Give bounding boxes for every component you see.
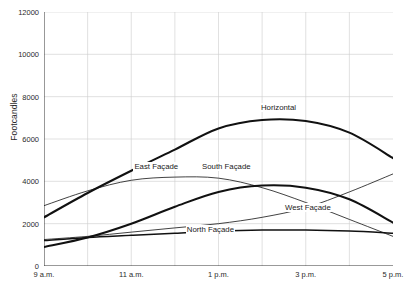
- series-label: Horizontal: [260, 103, 297, 112]
- y-axis-tick-label: 10000: [5, 50, 39, 59]
- y-axis-tick-label: 12000: [5, 8, 39, 17]
- x-axis-tick-label: 5 p.m.: [383, 270, 404, 279]
- series-label: East Façade: [133, 162, 179, 171]
- x-axis-tick-label: 3 p.m.: [295, 270, 316, 279]
- series-label: West Façade: [284, 203, 332, 212]
- y-axis-tick-label: 6000: [5, 135, 39, 144]
- x-axis-tick-label: 1 p.m.: [208, 270, 229, 279]
- y-axis-tick-label: 2000: [5, 219, 39, 228]
- x-axis-tick-label: 11 a.m.: [119, 270, 143, 279]
- y-axis-tick-label: 8000: [5, 92, 39, 101]
- footcandles-line-chart: Footcandles 0200040006000800010000120009…: [0, 0, 411, 293]
- series-label: North Façade: [186, 225, 235, 234]
- x-axis-tick-label: 9 a.m.: [34, 270, 55, 279]
- y-axis-title: Footcandles: [9, 77, 19, 157]
- y-axis-tick-label: 4000: [5, 177, 39, 186]
- series-label: South Façade: [201, 162, 252, 171]
